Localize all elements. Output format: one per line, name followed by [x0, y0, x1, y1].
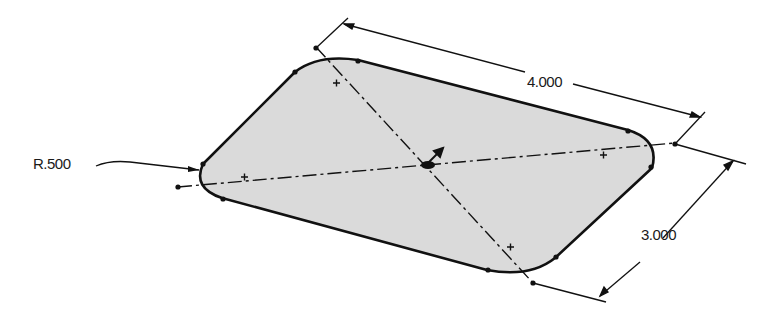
length-dimension-label: 4.000 [527, 73, 562, 90]
radius-leader-arrow [188, 166, 199, 172]
width-dimension-label: 3.000 [641, 226, 676, 243]
radius-leader-line [96, 162, 199, 171]
radius-dimension-label: R.500 [33, 155, 71, 172]
